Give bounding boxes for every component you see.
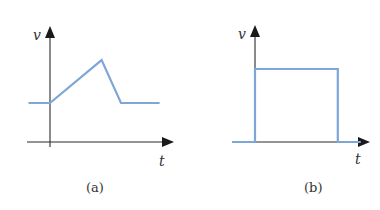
figure: v t (a) v t (b) [0, 0, 380, 210]
panel-a: v t (a) [27, 26, 174, 195]
panel-a-signal [29, 60, 160, 103]
panel-a-caption: (a) [86, 180, 104, 195]
panel-b-x-label: t [355, 151, 361, 167]
panel-b-y-arrow-icon [250, 25, 260, 37]
panel-a-x-label: t [159, 153, 165, 169]
panel-a-y-arrow-icon [45, 26, 55, 38]
panel-a-y-label: v [33, 27, 41, 43]
panel-b-caption: (b) [304, 180, 322, 195]
panel-b: v t (b) [232, 25, 370, 195]
panel-a-x-arrow-icon [162, 137, 174, 147]
panel-b-y-label: v [238, 26, 246, 42]
panel-b-signal [232, 69, 361, 142]
